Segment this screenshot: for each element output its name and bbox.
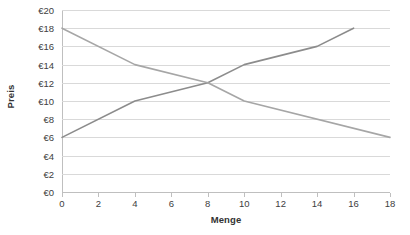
y-axis-tick-label: €0 <box>43 187 54 198</box>
x-axis-title: Menge <box>62 214 390 225</box>
x-axis-tick-label: 16 <box>348 198 359 209</box>
x-axis-tick-mark <box>281 193 282 197</box>
y-axis-tick-label: €12 <box>38 77 54 88</box>
y-axis-tick-label: €20 <box>38 5 54 16</box>
x-axis-tick-mark <box>135 193 136 197</box>
y-axis-tick-label: €10 <box>38 96 54 107</box>
y-axis-title-label: Preis <box>6 84 17 108</box>
x-axis-tick-mark <box>390 193 391 197</box>
x-axis-tick-label: 12 <box>275 198 286 209</box>
y-axis-title: Preis <box>0 0 22 192</box>
x-axis-tick-label: 14 <box>312 198 323 209</box>
plot-area <box>62 10 390 192</box>
x-axis-tick-mark <box>98 193 99 197</box>
x-axis-tick-label: 18 <box>385 198 396 209</box>
chart-container: Preis €0€2€4€6€8€10€12€14€16€18€20 02468… <box>0 0 410 235</box>
y-axis-tick-label: €8 <box>43 114 54 125</box>
y-axis-tick-labels: €0€2€4€6€8€10€12€14€16€18€20 <box>20 10 58 192</box>
x-axis-tick-mark <box>317 193 318 197</box>
series-line-demand <box>62 28 390 137</box>
y-axis-tick-label: €16 <box>38 41 54 52</box>
y-axis-tick-label: €4 <box>43 150 54 161</box>
x-axis-tick-label: 6 <box>169 198 174 209</box>
x-axis-tick-mark <box>354 193 355 197</box>
x-axis-tick-label: 4 <box>132 198 137 209</box>
y-axis-tick-label: €2 <box>43 168 54 179</box>
x-axis-tick-mark <box>62 193 63 197</box>
y-axis-tick-label: €18 <box>38 23 54 34</box>
y-axis-tick-label: €14 <box>38 59 54 70</box>
x-axis-tick-mark <box>244 193 245 197</box>
series-lines <box>62 10 390 192</box>
x-axis-tick-mark <box>171 193 172 197</box>
x-axis-tick-label: 0 <box>59 198 64 209</box>
y-axis-tick-label: €6 <box>43 132 54 143</box>
x-axis-tick-label: 2 <box>96 198 101 209</box>
x-axis-tick-labels: 024681012141618 <box>62 198 390 212</box>
x-axis-tick-label: 10 <box>239 198 250 209</box>
x-axis-tick-label: 8 <box>205 198 210 209</box>
x-axis-tick-mark <box>208 193 209 197</box>
